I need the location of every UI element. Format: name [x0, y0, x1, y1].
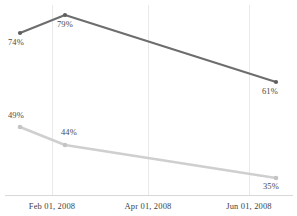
data-label-secondary-2: 35% [263, 182, 279, 191]
gridlines [53, 5, 250, 195]
data-label-primary-1: 79% [57, 20, 73, 29]
data-point-primary-1[interactable] [63, 13, 67, 17]
data-point-secondary-2[interactable] [274, 176, 279, 181]
data-label-secondary-0: 49% [8, 111, 24, 120]
data-point-secondary-0[interactable] [18, 125, 23, 130]
data-point-primary-2[interactable] [274, 80, 278, 84]
line-chart: 74%79%61%49%44%35% Feb 01, 2008Apr 01, 2… [0, 0, 297, 216]
data-point-secondary-1[interactable] [63, 143, 68, 148]
data-point-primary-0[interactable] [18, 31, 22, 35]
plot-area [0, 0, 297, 216]
x-tick-label-2: Jun 01, 2008 [226, 202, 271, 211]
data-label-primary-0: 74% [8, 38, 24, 47]
x-tick-label-1: Apr 01, 2008 [125, 202, 172, 211]
data-label-secondary-1: 44% [61, 128, 77, 137]
data-label-primary-2: 61% [262, 87, 278, 96]
x-tick-label-0: Feb 01, 2008 [29, 202, 75, 211]
